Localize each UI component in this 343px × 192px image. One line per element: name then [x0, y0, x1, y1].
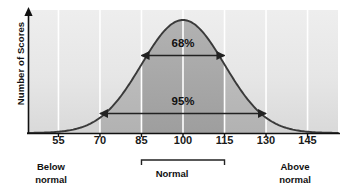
x-tick-label-130: 130 [249, 134, 283, 146]
x-tick-label-85: 85 [124, 134, 158, 146]
x-tick-label-115: 115 [208, 134, 242, 146]
normal-range-bracket [141, 160, 224, 165]
x-tick-label-100: 100 [166, 134, 200, 146]
label-68-percent: 68% [171, 37, 194, 49]
caption-above-normal-line2: normal [254, 173, 336, 186]
x-tick-label-70: 70 [83, 134, 117, 146]
caption-below-normal-line2: normal [10, 173, 92, 186]
label-95-percent: 95% [171, 95, 194, 107]
x-tick-label-145: 145 [291, 134, 325, 146]
caption-normal: Normal [134, 167, 210, 180]
normal-distribution-figure: Number of Scores [0, 0, 343, 192]
caption-above-normal-line1: Above [254, 160, 336, 173]
caption-normal-line1: Normal [134, 167, 210, 180]
x-tick-label-55: 55 [41, 134, 75, 146]
caption-below-normal: Below normal [10, 160, 92, 186]
caption-above-normal: Above normal [254, 160, 336, 186]
caption-below-normal-line1: Below [10, 160, 92, 173]
